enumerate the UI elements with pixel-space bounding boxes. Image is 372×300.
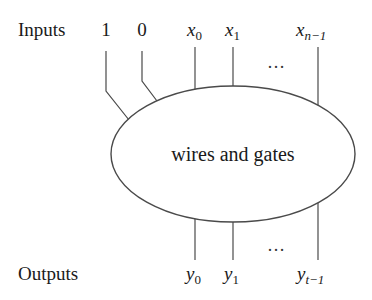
- output-yt-1-base: y: [295, 263, 306, 284]
- output-y1-base: y: [222, 263, 233, 284]
- output-y0-sub: 0: [194, 272, 201, 287]
- input-x0: x0: [186, 19, 202, 43]
- outputs-label: Outputs: [18, 263, 78, 284]
- wire-input-const-0: [142, 51, 157, 101]
- inputs-label: Inputs: [18, 19, 66, 40]
- input-x1-sub: 1: [233, 28, 240, 43]
- input-xn-1: xn−1: [295, 19, 326, 43]
- input-x1: x1: [224, 19, 240, 43]
- output-y0-base: y: [184, 263, 195, 284]
- input-const-0: 0: [137, 19, 147, 40]
- outputs-ellipsis: …: [267, 235, 285, 255]
- output-y1-sub: 1: [232, 272, 239, 287]
- output-y1: y1: [222, 263, 239, 287]
- input-x0-sub: 0: [195, 28, 202, 43]
- block-label: wires and gates: [171, 143, 295, 166]
- output-yt-1-sub: t−1: [305, 272, 324, 287]
- output-y0: y0: [184, 263, 201, 287]
- input-xn-1-sub: n−1: [304, 28, 326, 43]
- input-const-1: 1: [101, 19, 111, 40]
- circuit-diagram: wires and gates Inputs 1 0 x0 x1 xn−1 … …: [0, 0, 372, 300]
- inputs-ellipsis: …: [267, 52, 285, 72]
- output-yt-1: yt−1: [295, 263, 324, 287]
- wire-input-const-1: [106, 51, 129, 120]
